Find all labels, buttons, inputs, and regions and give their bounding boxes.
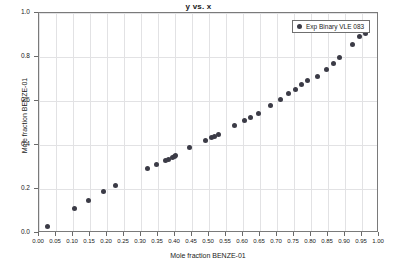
y-tick-mark bbox=[34, 144, 38, 145]
chart-figure: y vs. x 0.000.050.100.150.200.250.300.35… bbox=[0, 0, 397, 269]
gridline-vertical bbox=[328, 13, 329, 231]
gridline-vertical bbox=[192, 13, 193, 231]
x-tick-mark bbox=[378, 232, 379, 236]
x-tick-mark bbox=[225, 232, 226, 236]
gridline-vertical bbox=[209, 13, 210, 231]
gridline-vertical bbox=[260, 13, 261, 231]
data-point bbox=[173, 153, 178, 158]
data-point bbox=[324, 67, 329, 72]
y-axis-label: Mole fraction BENZE-01 bbox=[21, 46, 28, 186]
gridline-vertical bbox=[175, 13, 176, 231]
gridline-horizontal bbox=[39, 57, 377, 58]
x-tick-mark bbox=[157, 232, 158, 236]
gridline-vertical bbox=[362, 13, 363, 231]
y-tick-mark bbox=[34, 56, 38, 57]
plot-area[interactable] bbox=[38, 12, 378, 232]
data-point bbox=[331, 61, 336, 66]
x-tick-mark bbox=[327, 232, 328, 236]
x-tick-mark bbox=[72, 232, 73, 236]
x-tick-mark bbox=[310, 232, 311, 236]
y-tick-mark bbox=[34, 232, 38, 233]
x-tick-mark bbox=[123, 232, 124, 236]
x-tick-mark bbox=[208, 232, 209, 236]
data-point bbox=[154, 162, 159, 167]
gridline-horizontal bbox=[39, 101, 377, 102]
gridline-vertical bbox=[345, 13, 346, 231]
page-title: y vs. x bbox=[0, 2, 397, 11]
gridline-horizontal bbox=[39, 13, 377, 14]
legend-marker-icon bbox=[297, 24, 302, 29]
gridline-vertical bbox=[294, 13, 295, 231]
gridline-vertical bbox=[158, 13, 159, 231]
gridline-vertical bbox=[226, 13, 227, 231]
x-tick-mark bbox=[344, 232, 345, 236]
data-point bbox=[256, 111, 261, 116]
gridline-vertical bbox=[311, 13, 312, 231]
x-tick-mark bbox=[361, 232, 362, 236]
legend-item-label: Exp Binary VLE 083 bbox=[306, 23, 364, 30]
data-point bbox=[248, 115, 253, 120]
gridline-vertical bbox=[73, 13, 74, 231]
x-tick-mark bbox=[259, 232, 260, 236]
data-point bbox=[45, 224, 50, 229]
x-tick-mark bbox=[89, 232, 90, 236]
data-point bbox=[350, 42, 355, 47]
data-point bbox=[101, 189, 106, 194]
data-point bbox=[299, 82, 304, 87]
gridline-vertical bbox=[39, 13, 40, 231]
x-tick-mark bbox=[55, 232, 56, 236]
y-tick-mark bbox=[34, 188, 38, 189]
y-tick-mark bbox=[34, 12, 38, 13]
gridline-vertical bbox=[107, 13, 108, 231]
x-tick-mark bbox=[191, 232, 192, 236]
x-tick-mark bbox=[276, 232, 277, 236]
y-tick-label: 0.0 bbox=[6, 228, 30, 235]
data-point bbox=[293, 87, 298, 92]
data-point bbox=[203, 138, 208, 143]
gridline-vertical bbox=[124, 13, 125, 231]
x-tick-mark bbox=[174, 232, 175, 236]
data-point bbox=[305, 78, 310, 83]
gridline-horizontal bbox=[39, 145, 377, 146]
data-point bbox=[286, 91, 291, 96]
y-tick-label: 1.0 bbox=[6, 8, 30, 15]
legend[interactable]: Exp Binary VLE 083 bbox=[292, 20, 370, 33]
data-point bbox=[337, 55, 342, 60]
x-tick-label: 1.00 bbox=[365, 238, 391, 244]
gridline-vertical bbox=[141, 13, 142, 231]
gridline-horizontal bbox=[39, 189, 377, 190]
x-tick-mark bbox=[242, 232, 243, 236]
data-point bbox=[315, 74, 320, 79]
x-tick-mark bbox=[38, 232, 39, 236]
data-point bbox=[72, 206, 77, 211]
y-tick-mark bbox=[34, 100, 38, 101]
x-axis-label: Mole fraction BENZE-01 bbox=[38, 252, 378, 259]
data-point bbox=[113, 183, 118, 188]
data-point bbox=[242, 118, 247, 123]
x-tick-mark bbox=[140, 232, 141, 236]
gridline-vertical bbox=[56, 13, 57, 231]
gridline-vertical bbox=[277, 13, 278, 231]
data-point bbox=[268, 103, 273, 108]
data-point bbox=[216, 132, 221, 137]
data-point bbox=[232, 123, 237, 128]
data-point bbox=[145, 166, 150, 171]
x-tick-mark bbox=[106, 232, 107, 236]
x-tick-mark bbox=[293, 232, 294, 236]
